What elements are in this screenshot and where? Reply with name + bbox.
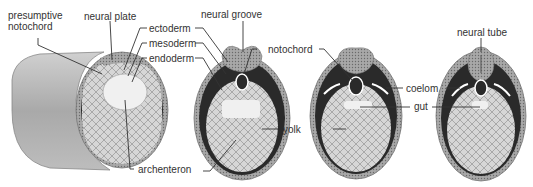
label-presumptive-notochord: presumptive notochord xyxy=(8,10,62,32)
label-presumptive-line2: notochord xyxy=(8,21,62,32)
label-notochord: notochord xyxy=(268,44,312,55)
stage-4-neural-tube xyxy=(436,47,526,181)
stage-1-cylinder xyxy=(12,52,168,170)
label-coelom: coelom xyxy=(406,83,438,94)
label-mesoderm: mesoderm xyxy=(149,38,196,49)
label-presumptive-line1: presumptive xyxy=(8,10,62,21)
label-ectoderm: ectoderm xyxy=(149,23,191,34)
neurulation-diagram xyxy=(0,0,533,187)
label-archenteron: archenteron xyxy=(138,164,191,175)
label-gut: gut xyxy=(414,101,428,112)
label-neural-plate: neural plate xyxy=(84,11,136,22)
label-neural-tube: neural tube xyxy=(457,27,507,38)
label-endoderm: endoderm xyxy=(149,53,194,64)
stage-3 xyxy=(310,48,402,179)
label-yolk: yolk xyxy=(283,124,301,135)
label-neural-groove: neural groove xyxy=(201,9,262,20)
